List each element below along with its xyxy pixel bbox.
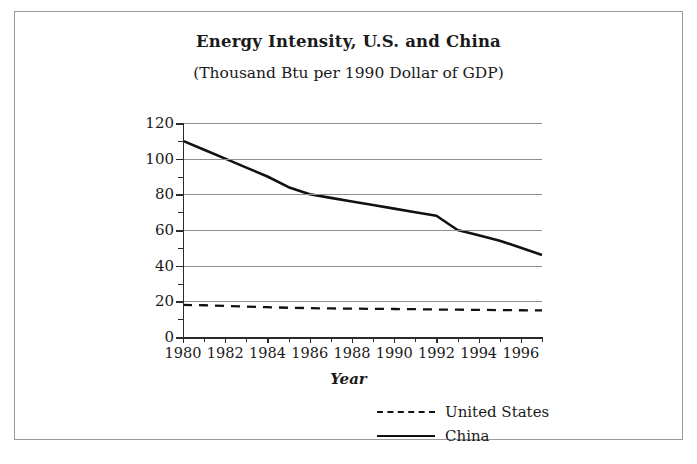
- x-axis-major-tick: [479, 337, 480, 343]
- x-axis-tick-label: 1984: [249, 345, 286, 361]
- x-axis-minor-tick: [542, 337, 543, 342]
- x-axis-minor-tick: [289, 337, 290, 342]
- gridline: [183, 123, 542, 124]
- x-axis-major-tick: [352, 337, 353, 343]
- x-axis-line: [183, 337, 543, 339]
- chart-subtitle: (Thousand Btu per 1990 Dollar of GDP): [15, 64, 682, 82]
- legend-item-united-states: United States: [377, 400, 617, 424]
- gridline: [183, 159, 542, 160]
- x-axis-tick-label: 1994: [460, 345, 497, 361]
- x-axis-major-tick: [394, 337, 395, 343]
- legend-label: China: [445, 427, 490, 445]
- plot-area: 020406080100120: [169, 112, 543, 338]
- legend-label: United States: [445, 403, 549, 421]
- y-axis-major-tick: [176, 230, 184, 232]
- legend-solid-line-icon: [377, 430, 435, 442]
- x-axis-minor-tick: [204, 337, 205, 342]
- x-axis-minor-tick: [458, 337, 459, 342]
- y-axis-tick-label: 80: [155, 185, 174, 203]
- x-axis-title: Year: [15, 370, 682, 388]
- x-axis-minor-tick: [373, 337, 374, 342]
- series-line-united-states: [183, 305, 542, 311]
- gridline: [183, 230, 542, 231]
- x-axis-major-tick: [436, 337, 437, 343]
- x-axis-major-tick: [183, 337, 184, 343]
- x-axis-tick-label: 1986: [291, 345, 328, 361]
- chart-figure: Energy Intensity, U.S. and China (Thousa…: [14, 11, 683, 440]
- y-axis-tick-label: 20: [155, 292, 174, 310]
- y-axis-major-tick: [176, 159, 184, 161]
- legend-dashed-line-icon: [377, 406, 435, 418]
- gridline: [183, 266, 542, 267]
- x-axis-tick-label: 1980: [165, 345, 202, 361]
- y-axis-minor-tick: [178, 248, 184, 249]
- axes: 020406080100120: [183, 123, 542, 337]
- x-axis-tick-label: 1990: [376, 345, 413, 361]
- y-axis-major-tick: [176, 266, 184, 268]
- x-axis-major-tick: [225, 337, 226, 343]
- x-axis-major-tick: [521, 337, 522, 343]
- y-axis-tick-label: 40: [155, 257, 174, 275]
- chart-title: Energy Intensity, U.S. and China: [15, 32, 682, 51]
- legend-item-china: China: [377, 424, 617, 448]
- chart-legend: United States China: [377, 400, 617, 448]
- x-axis-minor-tick: [331, 337, 332, 342]
- x-axis-tick-label: 1992: [418, 345, 455, 361]
- x-axis-tick-label: 1982: [207, 345, 244, 361]
- y-axis-minor-tick: [178, 319, 184, 320]
- x-axis-minor-tick: [415, 337, 416, 342]
- y-axis-tick-label: 100: [145, 150, 174, 168]
- y-axis-tick-label: 0: [164, 328, 174, 346]
- y-axis-minor-tick: [178, 177, 184, 178]
- y-axis-major-tick: [176, 194, 184, 196]
- x-axis-minor-tick: [246, 337, 247, 342]
- gridline: [183, 301, 542, 302]
- y-axis-tick-label: 60: [155, 221, 174, 239]
- x-axis-major-tick: [267, 337, 268, 343]
- x-axis-minor-tick: [500, 337, 501, 342]
- y-axis-minor-tick: [178, 284, 184, 285]
- y-axis-minor-tick: [178, 212, 184, 213]
- x-axis-tick-label: 1996: [502, 345, 539, 361]
- y-axis-minor-tick: [178, 141, 184, 142]
- y-axis-major-tick: [176, 301, 184, 303]
- x-axis-tick-label: 1988: [333, 345, 370, 361]
- y-axis-tick-label: 120: [145, 114, 174, 132]
- x-axis-major-tick: [310, 337, 311, 343]
- y-axis-major-tick: [176, 123, 184, 125]
- gridline: [183, 194, 542, 195]
